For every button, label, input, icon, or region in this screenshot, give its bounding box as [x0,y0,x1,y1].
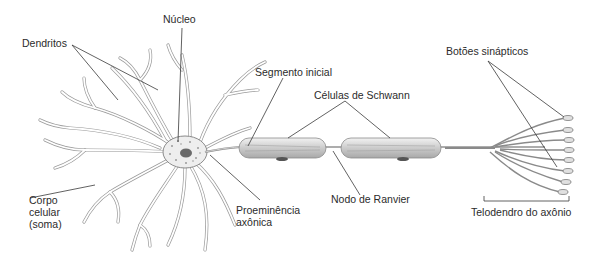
label-corpo-celular-2: celular [29,206,60,218]
label-proeminencia-1: Proeminência [236,204,300,216]
label-corpo-celular-3: (soma) [29,218,62,230]
cell-body [163,136,207,168]
label-telodendro: Telodendro do axônio [471,206,571,218]
neuron-diagram: Núcleo Dendritos Segmento inicial Célula… [0,0,590,268]
schwann-cell-1 [239,138,326,161]
telodendria [445,118,566,192]
label-celulas-schwann: Células de Schwann [314,89,410,101]
label-nucleo: Núcleo [163,13,196,25]
label-proeminencia-2: axônica [236,216,272,228]
schwann-cell-2 [341,138,441,161]
synaptic-boutons [558,116,574,195]
label-segmento-inicial: Segmento inicial [255,66,332,78]
label-corpo-celular-1: Corpo [29,194,58,206]
label-dendritos: Dendritos [22,37,67,49]
neuron-illustration [0,0,590,268]
label-botoes-sinapticos: Botões sinápticos [446,45,528,57]
label-nodo-ranvier: Nodo de Ranvier [331,193,410,205]
nucleus [180,149,192,158]
